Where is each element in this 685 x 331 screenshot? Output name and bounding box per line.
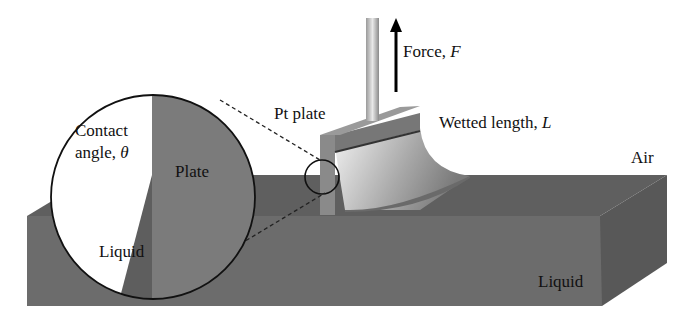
inset-plate-label: Plate — [175, 162, 209, 182]
wetted-length-label: Wetted length, L — [439, 113, 551, 133]
liquid-bath-label: Liquid — [538, 272, 583, 292]
inset-contact-angle-label: Contactangle, θ — [75, 120, 129, 164]
pt-plate-label: Pt plate — [274, 104, 325, 124]
force-label: Force, F — [403, 42, 461, 62]
inset-liquid-label: Liquid — [99, 242, 144, 262]
suspension-rod — [366, 18, 379, 121]
pt-plate-side — [320, 135, 335, 215]
arrow-head-icon — [390, 18, 402, 32]
air-label: Air — [631, 148, 654, 168]
